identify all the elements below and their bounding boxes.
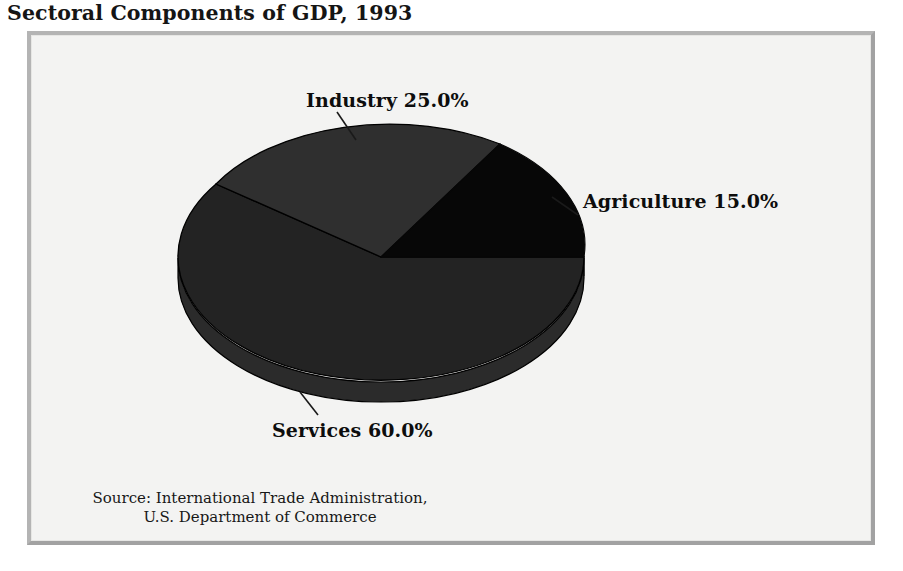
pie-label-industry: Industry 25.0%: [306, 89, 469, 111]
source-line-1: Source: International Trade Administrati…: [60, 489, 460, 508]
pie-label-services: Services 60.0%: [272, 419, 433, 441]
pie-chart: [0, 0, 903, 571]
pie-label-agriculture: Agriculture 15.0%: [583, 190, 778, 212]
source-note: Source: International Trade Administrati…: [60, 489, 460, 527]
source-line-2: U.S. Department of Commerce: [60, 508, 460, 527]
